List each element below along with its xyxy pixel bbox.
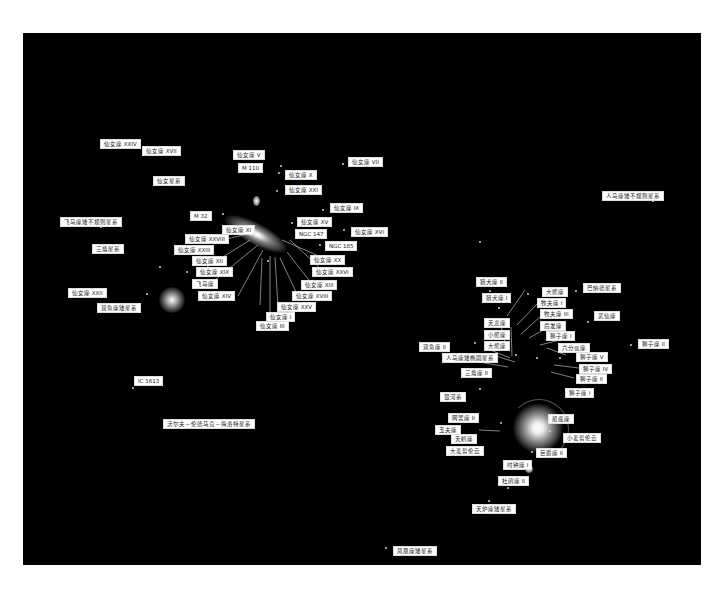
star-marker [280, 165, 282, 167]
label-and-xvii: 仙女座 XVII [142, 146, 181, 156]
label-leo-t-ish: 巴纳德星系 [583, 283, 621, 293]
star-marker [527, 293, 529, 295]
label-and-xxiii: 仙女座 XXIII [174, 245, 214, 255]
star-marker [559, 357, 561, 359]
label-and-x: 仙女座 X [285, 170, 317, 180]
star-marker [536, 357, 538, 359]
milky-way-galaxy-image [513, 403, 563, 453]
label-andromeda: 仙女星系 [153, 176, 185, 186]
label-leo-v: 狮子座 V [576, 352, 608, 362]
label-milky-way: 银河系 [440, 392, 466, 402]
label-carina: 船底座 [548, 414, 574, 424]
label-and-xii: 仙女座 XII [192, 256, 227, 266]
label-and-xv: 仙女座 XV [297, 217, 332, 227]
star-marker [385, 547, 387, 549]
star-marker [488, 500, 490, 502]
label-triangulum-ii: 三角座 II [461, 368, 492, 378]
label-ursa-major: 大熊座 [542, 287, 568, 297]
star-marker [159, 266, 161, 268]
label-and-xiv: 仙女座 XIV [198, 291, 235, 301]
triangulum-galaxy-image [159, 287, 185, 313]
label-horologium-i: 时钟座 I [503, 460, 532, 470]
label-grus-ii: 巨爵座 II [536, 448, 567, 458]
label-lmc: 大麦哲伦云 [446, 446, 484, 456]
label-ursa-minor: 小熊座 [484, 330, 510, 340]
label-hercules: 后发座 [540, 321, 566, 331]
label-ngc185: NGC 185 [325, 241, 357, 251]
label-and-xxv: 仙女座 XXV [277, 302, 316, 312]
local-group-diagram [23, 33, 701, 565]
label-pegasus-dsph: 飞马座 [192, 279, 218, 289]
label-ic1613: IC 1613 [134, 376, 163, 386]
label-reticulum-ii: 网罟座 II [448, 413, 479, 423]
label-sag-dirr: 人马座矮不规则星系 [602, 191, 664, 201]
star-marker [222, 213, 224, 215]
star-marker [267, 260, 269, 262]
star-marker [186, 271, 188, 273]
label-smc: 小麦哲伦云 [563, 433, 601, 443]
label-phoenix-ii: 天鹤座 [451, 434, 477, 444]
label-and-xvi: 仙女座 XVI [351, 227, 388, 237]
star-marker [500, 422, 502, 424]
label-cvn-i: 猎犬座 I [482, 293, 511, 303]
label-wlm: 沃尔夫－伦德马克－梅洛特星系 [163, 419, 255, 429]
star-marker [146, 293, 148, 295]
label-and-xxviii: 仙女座 XXVIII [185, 234, 229, 244]
label-leo-a: 狮子座 I [565, 388, 594, 398]
label-fornax: 天炉座矮星系 [472, 504, 516, 514]
star-marker [291, 222, 293, 224]
label-phoenix: 凤凰座矮星系 [393, 546, 437, 556]
label-leo-ii: 狮子座 II [638, 339, 669, 349]
star-marker [549, 430, 551, 432]
star-marker [276, 190, 278, 192]
label-and-vii: 仙女座 VII [348, 157, 383, 167]
label-and-xxii: 仙女座 XXII [68, 288, 107, 298]
label-m110: M 110 [238, 163, 263, 173]
label-m32: M 32 [190, 211, 212, 221]
label-leo-iv: 狮子座 IV [579, 364, 612, 374]
star-marker [515, 354, 517, 356]
label-and-xiii: 仙女座 XIII [301, 280, 337, 290]
label-and-xix: 仙女座 XIX [196, 267, 233, 277]
label-ngc147: NGC 147 [295, 229, 327, 239]
label-bootes-i: 牧夫座 I [537, 298, 566, 308]
label-and-xxvi: 仙女座 XXVI [312, 267, 353, 277]
label-and-ix: 仙女座 IX [330, 203, 363, 213]
label-ant-2x: 猎犬座 II [476, 277, 507, 287]
star-marker [630, 344, 632, 346]
label-leo-iii: 狮子座 II [576, 374, 607, 384]
label-draco: 天龙座 [484, 318, 510, 328]
label-bootes-ii: 牧夫座 III [540, 309, 573, 319]
star-marker [489, 290, 491, 292]
star-marker [575, 290, 577, 292]
label-sextans-b: 武仙座 [594, 311, 620, 321]
star-marker [319, 244, 321, 246]
label-pegasus-dirr: 飞马座矮不规则星系 [60, 217, 122, 227]
label-and-iii: 仙女座 III [256, 321, 289, 331]
star-marker [342, 163, 344, 165]
label-and-xxi: 仙女座 XXI [285, 185, 322, 195]
m110-galaxy-image [253, 196, 260, 206]
label-triangulum: 三角星系 [92, 244, 124, 254]
label-and-xxiv: 仙女座 XXIV [100, 139, 141, 149]
label-and-xviii: 仙女座 XVIII [292, 291, 332, 301]
star-marker [479, 241, 481, 243]
star-marker [498, 307, 500, 309]
label-and-xx: 仙女座 XX [310, 255, 345, 265]
star-marker [132, 387, 134, 389]
label-ursa-major-ii: 大熊座 [484, 341, 510, 351]
star-marker [474, 342, 476, 344]
star-marker [587, 321, 589, 323]
star-marker [278, 172, 280, 174]
label-leo-i: 狮子座 I [546, 331, 575, 341]
star-marker [479, 388, 481, 390]
label-pisces-dwarf: 双鱼座矮星系 [97, 303, 141, 313]
star-marker [507, 487, 509, 489]
star-marker [343, 229, 345, 231]
label-sgr-deg: 人马座矮椭圆星系 [442, 353, 498, 363]
star-marker [531, 451, 533, 453]
label-tucana-ii: 杜鹃座 II [498, 476, 529, 486]
label-pisces-ii: 双鱼座 II [419, 342, 450, 352]
label-and-v: 仙女座 V [233, 150, 265, 160]
star-marker [322, 209, 324, 211]
